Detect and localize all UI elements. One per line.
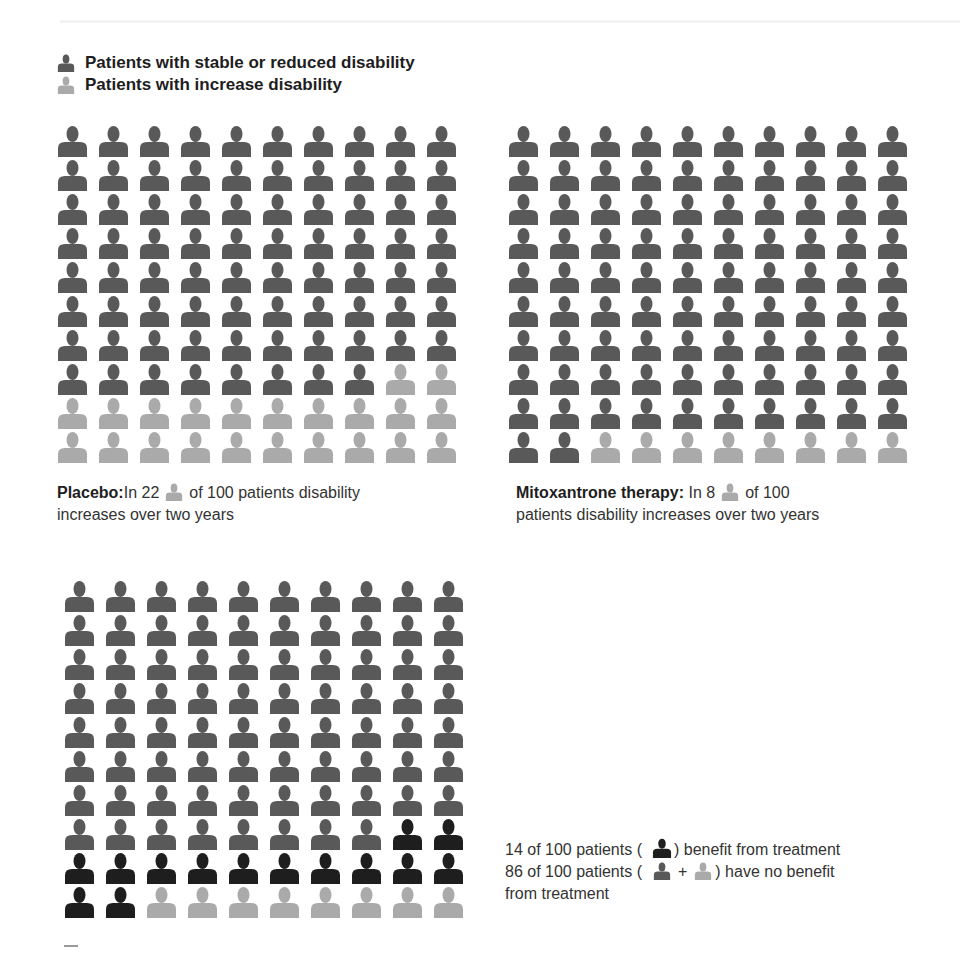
person-icon-stable xyxy=(836,227,867,259)
person-icon-stable xyxy=(590,261,621,293)
caption-mitoxantrone-title: Mitoxantrone therapy: xyxy=(516,484,684,501)
person-icon-stable xyxy=(672,125,703,157)
person-icon-stable xyxy=(508,125,539,157)
person-icon-stable xyxy=(269,614,300,646)
person-icon-stable xyxy=(351,682,382,714)
person-icon-benefit xyxy=(105,852,136,884)
person-icon-stable xyxy=(303,159,334,191)
person-icon-stable xyxy=(310,580,341,612)
person-icon-stable xyxy=(795,159,826,191)
person-icon-stable xyxy=(877,295,908,327)
person-icon-stable xyxy=(344,227,375,259)
person-icon-stable xyxy=(105,648,136,680)
person-icon-increase xyxy=(351,886,382,918)
person-icon-stable xyxy=(221,159,252,191)
person-icon-stable xyxy=(754,329,785,361)
caption-mitoxantrone: Mitoxantrone therapy: In 8of 100 patient… xyxy=(516,482,936,526)
person-icon-stable xyxy=(228,580,259,612)
person-icon-stable xyxy=(269,750,300,782)
person-icon-stable xyxy=(269,580,300,612)
person-icon-stable xyxy=(146,716,177,748)
legend-item-stable: Patients with stable or reduced disabili… xyxy=(57,52,415,74)
caption-placebo: Placebo:In 22of 100 patients disability … xyxy=(57,482,457,526)
person-icon-stable xyxy=(508,295,539,327)
person-icon-stable xyxy=(180,159,211,191)
person-icon-stable xyxy=(549,261,580,293)
person-icon-stable xyxy=(508,227,539,259)
person-icon-stable xyxy=(385,329,416,361)
person-icon-stable xyxy=(433,580,464,612)
person-icon-stable xyxy=(269,784,300,816)
person-icon-stable xyxy=(713,397,744,429)
person-icon-stable xyxy=(549,125,580,157)
caption-mitoxantrone-post: of 100 xyxy=(745,484,789,501)
person-icon-stable xyxy=(105,784,136,816)
person-icon-increase xyxy=(221,431,252,463)
person-icon-stable xyxy=(672,159,703,191)
person-icon-benefit xyxy=(310,852,341,884)
person-icon-increase xyxy=(163,483,185,501)
person-icon-stable xyxy=(146,750,177,782)
legend-label-stable: Patients with stable or reduced disabili… xyxy=(85,53,415,73)
person-icon-stable xyxy=(57,261,88,293)
person-icon-stable xyxy=(385,227,416,259)
person-icon-stable xyxy=(187,716,218,748)
person-icon-stable xyxy=(187,682,218,714)
person-icon-stable xyxy=(228,614,259,646)
person-icon-stable xyxy=(754,159,785,191)
person-icon-increase xyxy=(180,397,211,429)
person-icon-stable xyxy=(795,397,826,429)
person-icon-increase xyxy=(221,397,252,429)
person-icon-stable xyxy=(631,125,662,157)
person-icon-stable xyxy=(549,159,580,191)
person-icon-stable xyxy=(713,193,744,225)
person-icon-stable xyxy=(351,614,382,646)
person-icon-stable xyxy=(836,329,867,361)
person-icon-increase xyxy=(590,431,621,463)
person-icon-stable xyxy=(310,682,341,714)
person-icon-stable xyxy=(180,261,211,293)
person-icon-increase xyxy=(139,431,170,463)
person-icon-stable xyxy=(590,227,621,259)
person-icon-stable xyxy=(713,329,744,361)
person-icon-stable xyxy=(64,818,95,850)
person-icon-stable xyxy=(385,193,416,225)
caption-mitoxantrone-pre: In 8 xyxy=(688,484,715,501)
person-icon-stable xyxy=(754,261,785,293)
person-icon-stable xyxy=(187,818,218,850)
person-icon-stable xyxy=(269,648,300,680)
person-icon-increase xyxy=(426,363,457,395)
person-icon-stable xyxy=(631,261,662,293)
person-icon-stable xyxy=(64,682,95,714)
person-icon-stable xyxy=(262,159,293,191)
person-icon-benefit xyxy=(146,852,177,884)
person-icon-stable xyxy=(426,193,457,225)
person-icon-stable xyxy=(433,716,464,748)
person-icon-stable xyxy=(351,648,382,680)
person-icon-increase xyxy=(385,431,416,463)
person-icon-stable xyxy=(262,227,293,259)
person-icon-stable xyxy=(187,614,218,646)
person-icon-stable xyxy=(105,682,136,714)
person-icon-stable xyxy=(105,614,136,646)
caption-benefit-line1-post: ) benefit from treatment xyxy=(674,841,840,858)
person-icon-increase xyxy=(836,431,867,463)
person-icon-stable xyxy=(392,784,423,816)
person-icon-benefit xyxy=(269,852,300,884)
person-icon-stable xyxy=(310,750,341,782)
person-icon-stable xyxy=(64,648,95,680)
person-icon-stable xyxy=(713,227,744,259)
person-icon-stable xyxy=(508,431,539,463)
person-icon-stable xyxy=(262,329,293,361)
person-icon-increase xyxy=(392,886,423,918)
person-icon-stable xyxy=(713,261,744,293)
person-icon-benefit xyxy=(392,852,423,884)
person-icon-increase xyxy=(631,431,662,463)
person-icon-stable xyxy=(303,363,334,395)
person-icon-stable xyxy=(344,193,375,225)
person-icon-stable xyxy=(57,125,88,157)
person-icon-stable xyxy=(508,329,539,361)
person-icon-stable xyxy=(64,750,95,782)
person-icon-stable xyxy=(549,295,580,327)
person-icon-increase xyxy=(344,431,375,463)
